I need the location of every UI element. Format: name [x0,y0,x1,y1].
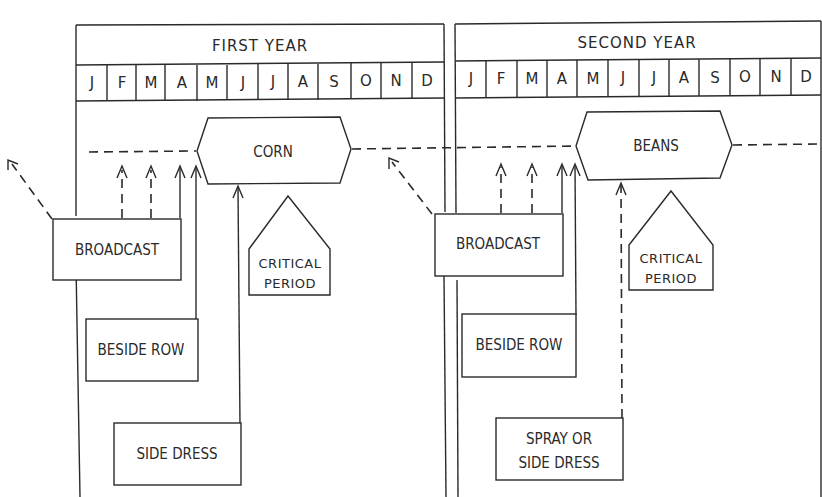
first-year-title: FIRST YEAR [212,37,308,55]
second-year-spray-box: SPRAY OR SIDE DRESS [496,418,623,480]
month-apr: A [557,70,568,88]
month-may: M [206,74,219,92]
month-may: M [587,70,600,88]
first-year-critical-period: CRITICAL PERIOD [249,196,330,295]
month-jun: J [620,69,625,87]
broadcast-label: BROADCAST [456,235,541,253]
broadcast-label: BROADCAST [75,241,160,259]
second-year-critical-period: CRITICAL PERIOD [629,191,713,290]
side-dress-label: SIDE DRESS [518,454,599,472]
first-year-beside-row-box: BESIDE ROW [86,319,198,381]
month-feb: F [118,74,127,92]
month-jun: J [240,74,245,92]
first-year-broadcast-box: BROADCAST [53,219,181,280]
month-sep: S [710,69,720,87]
month-oct: O [739,68,751,86]
month-jul: J [651,69,656,87]
first-year-arrows [8,160,243,425]
month-feb: F [497,70,506,88]
critical-label: CRITICAL [259,256,322,271]
month-jul: J [270,73,275,91]
first-year-side-dress-box: SIDE DRESS [114,423,241,485]
beside-row-label: BESIDE ROW [476,336,563,354]
month-dec: D [800,68,812,86]
crop-rotation-diagram: FIRST YEAR J F M A M J J A S O N D [0,0,822,497]
month-jan: J [89,74,94,92]
beans-crop-shape: BEANS [576,111,732,180]
month-oct: O [360,72,372,90]
second-year-beside-row-box: BESIDE ROW [462,314,576,377]
second-year-broadcast-box: BROADCAST [435,214,563,276]
second-year-title: SECOND YEAR [577,34,696,52]
beans-label: BEANS [633,137,679,155]
month-aug: A [679,69,690,87]
month-apr: A [177,74,188,92]
month-nov: N [770,68,781,86]
month-nov: N [390,72,401,90]
second-year-arrows [389,158,626,418]
year-boundary-line [444,276,446,497]
period-label: PERIOD [264,276,316,291]
month-aug: A [298,73,309,91]
month-mar: M [145,74,158,92]
beside-row-label: BESIDE ROW [98,341,185,359]
corn-label: CORN [253,143,293,161]
corn-crop-shape: CORN [197,117,351,184]
month-mar: M [526,70,539,88]
period-label: PERIOD [645,271,697,286]
critical-label: CRITICAL [640,251,703,266]
month-sep: S [329,73,339,91]
side-dress-label: SIDE DRESS [136,445,217,463]
spray-or-label: SPRAY OR [526,430,592,448]
month-dec: D [421,72,433,90]
month-jan: J [468,70,473,88]
